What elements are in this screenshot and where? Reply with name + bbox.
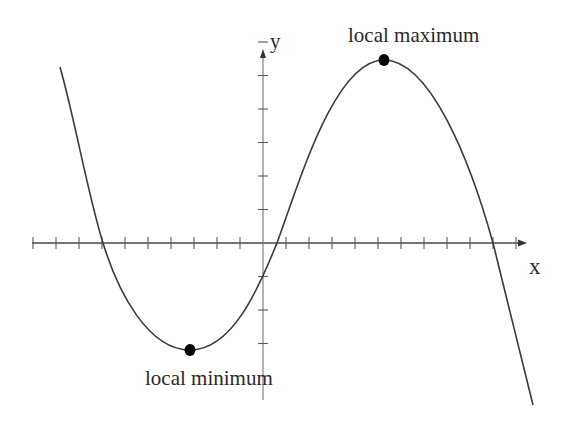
local-minimum-label: local minimum [145,366,273,390]
x-axis-label: x [529,254,541,279]
cubic-curve [60,60,533,405]
local-maximum-label: local maximum [348,23,479,47]
x-axis-arrow-icon [518,240,527,247]
y-axis [258,42,268,400]
y-axis-label: y [270,29,281,53]
local-maximum-point [379,54,390,66]
y-axis-arrow-icon [260,49,266,58]
local-minimum-point [185,344,196,356]
x-axis [32,237,527,249]
cubic-function-diagram: local maximum local minimum y x [0,0,565,425]
